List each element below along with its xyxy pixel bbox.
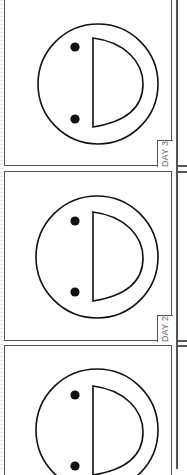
eye-dot-icon <box>70 216 79 225</box>
smiley-face-icon <box>38 24 158 144</box>
eye-dot-icon <box>70 461 79 470</box>
smiley-face-icon <box>36 196 158 318</box>
eye-dot-icon <box>70 114 79 123</box>
smiley-face-icon <box>36 369 158 475</box>
eye-dot-icon <box>70 42 79 51</box>
eye-dot-icon <box>70 287 79 296</box>
eye-dot-icon <box>70 390 79 399</box>
